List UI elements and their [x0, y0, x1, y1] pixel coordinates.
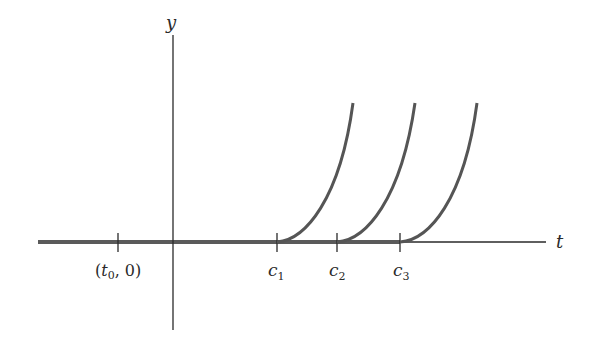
solution-curve-c1 — [277, 103, 353, 242]
diagram-canvas: y t (t0, 0) c1 c2 c3 — [0, 0, 595, 345]
tick-label-c3: c3 — [393, 260, 410, 283]
tick-label-c1: c1 — [268, 260, 285, 283]
t-axis-label: t — [556, 231, 564, 252]
tick-label-t0: (t0, 0) — [95, 261, 141, 282]
y-axis-label: y — [165, 12, 177, 33]
tick-label-c2: c2 — [329, 260, 346, 283]
